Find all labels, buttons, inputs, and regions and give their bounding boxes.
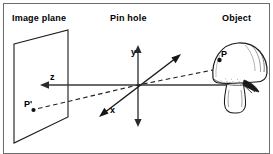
label-axis-z: z xyxy=(50,73,55,82)
pinhole-camera-figure: Image plane Pin hole Object y z x P P' xyxy=(0,0,273,154)
label-axis-y: y xyxy=(131,48,136,57)
label-axis-x: x xyxy=(110,106,115,115)
label-point-p-prime: P' xyxy=(24,100,32,109)
diagram-canvas xyxy=(0,0,273,154)
x-axis-arrowhead-upper xyxy=(171,54,181,63)
label-point-p: P xyxy=(221,50,227,59)
mushroom-stem xyxy=(224,79,245,113)
label-pin-hole: Pin hole xyxy=(110,14,147,23)
image-plane-quad xyxy=(14,30,68,143)
y-axis-arrowhead-bottom xyxy=(134,119,141,127)
label-object: Object xyxy=(222,14,251,23)
x-axis-arrowhead-lower xyxy=(99,108,109,117)
label-image-plane: Image plane xyxy=(12,14,66,23)
